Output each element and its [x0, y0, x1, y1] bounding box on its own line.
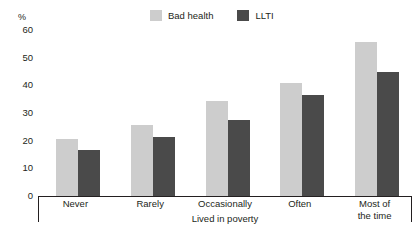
bar-llti [228, 120, 250, 196]
bar-bad-health [131, 125, 153, 196]
bar-llti [302, 95, 324, 196]
chart-legend: Bad health LLTI [150, 8, 274, 22]
bar-group [337, 30, 412, 196]
bar-bad-health [280, 83, 302, 196]
y-axis-tick-label: 60 [11, 25, 33, 35]
category-label-line: Rarely [113, 198, 188, 210]
bar-bad-health [56, 139, 78, 196]
category-label-line: Most of [337, 198, 412, 210]
category-label-line: Never [38, 198, 113, 210]
x-axis-title: Lived in poverty [38, 213, 412, 224]
bar-llti [377, 72, 399, 197]
y-axis-tick-label: 30 [11, 108, 33, 118]
legend-swatch-llti [237, 10, 249, 21]
y-axis-tick-label: 20 [11, 136, 33, 146]
bar-group [113, 30, 188, 196]
category-label-line: Occasionally [188, 198, 263, 210]
bar-llti [153, 137, 175, 196]
bar-chart: Bad health LLTI % 6050403020100 NeverRar… [0, 0, 419, 247]
bar-groups [38, 30, 412, 196]
legend-item-bad-health: Bad health [150, 10, 213, 21]
legend-label-bad-health: Bad health [168, 10, 213, 21]
bar-group [188, 30, 263, 196]
y-axis-tick-label: 50 [11, 53, 33, 63]
bar-bad-health [355, 42, 377, 196]
y-axis-tick-label: 0 [11, 191, 33, 201]
legend-label-llti: LLTI [255, 10, 273, 21]
y-axis-unit-label: % [18, 12, 26, 22]
legend-item-llti: LLTI [237, 10, 273, 21]
legend-swatch-bad-health [150, 10, 162, 21]
bar-group [262, 30, 337, 196]
bar-llti [78, 150, 100, 196]
y-axis-tick-label: 40 [11, 80, 33, 90]
y-axis-tick-label: 10 [11, 163, 33, 173]
category-label-line: Often [262, 198, 337, 210]
bar-group [38, 30, 113, 196]
plot-area: 6050403020100 NeverRarelyOccasionallyOft… [38, 30, 412, 196]
x-axis-line [38, 196, 412, 197]
bar-bad-health [206, 101, 228, 196]
